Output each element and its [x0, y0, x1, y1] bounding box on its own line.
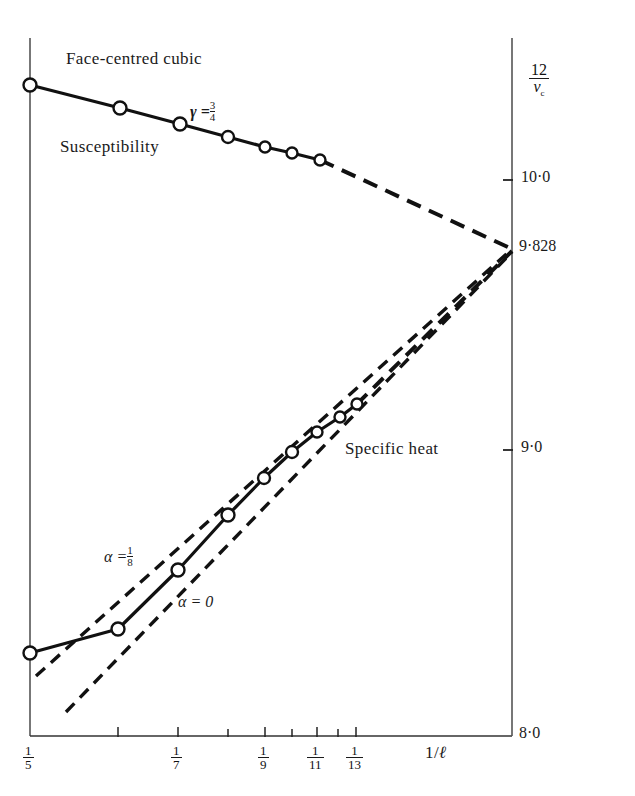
data-point: [112, 623, 125, 636]
gamma-fraction: 34: [210, 100, 216, 123]
data-point: [222, 509, 235, 522]
y-tick-label-9-828: 9·828: [519, 238, 556, 254]
data-point: [174, 118, 187, 131]
annotation-alpha-zero: α = 0: [178, 594, 213, 610]
data-point: [286, 446, 298, 458]
data-point: [24, 647, 37, 660]
annotation-alpha-one-eighth: α =18: [104, 545, 133, 568]
annotation-susceptibility: Susceptibility: [60, 138, 159, 155]
x-tick-label-1-9: 1 9: [258, 744, 269, 772]
x-tick-label-1-7: 1 7: [171, 744, 182, 772]
y-tick-label-9-0: 9·0: [521, 439, 542, 455]
y-axis-title-numerator: 12: [529, 62, 549, 78]
data-point: [24, 79, 37, 92]
alpha-zero-line: [66, 252, 512, 712]
x-tick-label-1-13: 1 13: [346, 744, 363, 772]
data-point: [335, 412, 346, 423]
data-point: [315, 155, 326, 166]
x-tick-label-1-11: 1 11: [307, 744, 324, 772]
x-tick-label-1-5: 1 5: [23, 744, 34, 772]
figure-container: 12 vc 10·0 9·828 9·0 8·0 1 5 1 7 1 9 1 1…: [0, 0, 635, 796]
data-point: [260, 142, 271, 153]
alpha-one-eighth-line: [36, 249, 512, 676]
data-point: [312, 427, 323, 438]
specific-heat-line: [30, 404, 357, 653]
data-point: [287, 148, 298, 159]
y-axis-title: 12 vc: [529, 62, 549, 99]
annotation-specific-heat: Specific heat: [345, 440, 438, 457]
alpha-fraction: 18: [127, 545, 133, 568]
x-axis-title: 1/ℓ: [425, 744, 447, 761]
y-tick-label-10-0: 10·0: [521, 169, 550, 185]
y-tick-label-8-0: 8·0: [519, 725, 540, 741]
y-axis-title-denominator: vc: [529, 78, 549, 98]
data-point: [352, 399, 363, 410]
annotation-gamma: γ =34: [190, 100, 215, 123]
susceptibility-extrapolation: [320, 160, 512, 249]
data-point: [114, 102, 127, 115]
y-axis-title-fraction: 12 vc: [529, 62, 549, 99]
data-point: [172, 564, 185, 577]
chart-svg: [0, 0, 635, 796]
data-point: [222, 131, 234, 143]
annotation-face-centred-cubic: Face-centred cubic: [66, 50, 202, 67]
data-point: [258, 472, 270, 484]
